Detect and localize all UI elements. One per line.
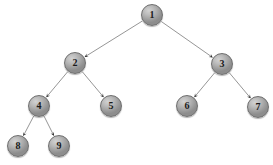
tree-edge [44, 116, 54, 135]
tree-node-3[interactable]: 3 [211, 53, 233, 75]
tree-edge [23, 116, 33, 136]
tree-node-label: 6 [185, 101, 190, 111]
tree-node-7[interactable]: 7 [247, 96, 269, 118]
tree-node-label: 4 [37, 101, 42, 111]
tree-node-label: 7 [256, 102, 261, 112]
tree-node-label: 3 [220, 59, 225, 69]
tree-edge [194, 73, 214, 97]
tree-edge [82, 72, 103, 97]
tree-edges-canvas [0, 0, 273, 165]
tree-node-8[interactable]: 8 [7, 135, 29, 157]
tree-node-4[interactable]: 4 [28, 95, 50, 117]
tree-node-5[interactable]: 5 [100, 95, 122, 117]
tree-edge [229, 73, 250, 98]
tree-edge [46, 72, 67, 97]
tree-node-label: 5 [109, 101, 114, 111]
tree-node-9[interactable]: 9 [48, 135, 70, 157]
tree-node-6[interactable]: 6 [176, 95, 198, 117]
tree-node-label: 1 [150, 10, 155, 20]
tree-edge [161, 22, 212, 58]
binary-tree-diagram: 123456789 [0, 0, 273, 165]
tree-edge [85, 21, 142, 57]
tree-node-2[interactable]: 2 [64, 52, 86, 74]
tree-node-1[interactable]: 1 [141, 4, 163, 26]
tree-node-label: 9 [57, 141, 62, 151]
tree-node-label: 2 [73, 58, 78, 68]
tree-node-label: 8 [16, 141, 21, 151]
